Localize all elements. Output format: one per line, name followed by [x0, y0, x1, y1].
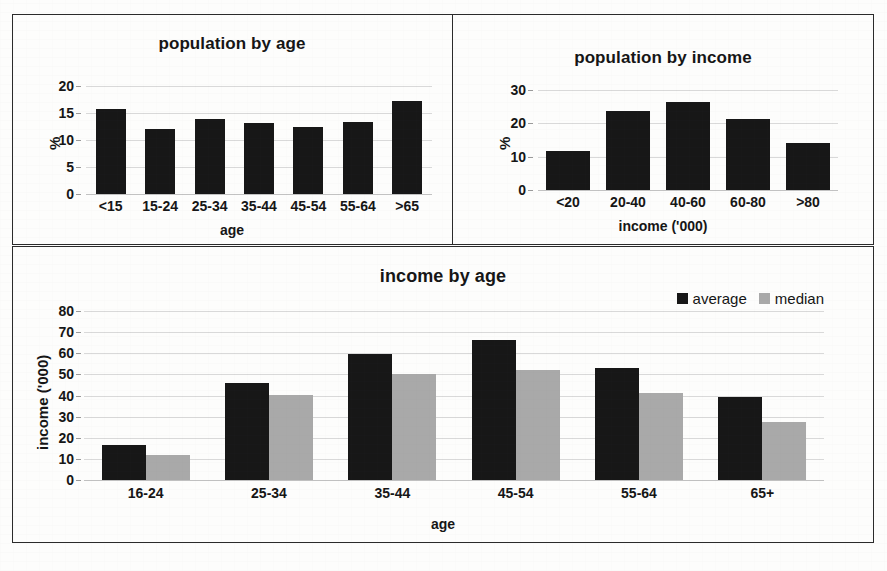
y-axis-tick-mark — [76, 480, 81, 481]
chart-title: income by age — [12, 266, 874, 287]
y-axis-tick-mark — [76, 140, 81, 141]
y-axis-tick-label: 50 — [34, 366, 74, 382]
bar-group — [244, 86, 274, 194]
bar-population by income — [546, 151, 590, 190]
x-axis-tick-label: 15-24 — [135, 198, 184, 214]
legend-label-median: median — [775, 290, 824, 307]
x-axis-tick-label: 55-64 — [333, 198, 382, 214]
legend-label-average: average — [693, 290, 747, 307]
legend-swatch-average — [677, 293, 688, 304]
y-axis-tick-mark — [76, 417, 81, 418]
bar-group — [595, 311, 683, 480]
x-axis-tick-label: 45-54 — [454, 485, 577, 501]
y-axis-tick-mark — [76, 353, 81, 354]
bar-series-container — [86, 86, 432, 194]
y-axis-tick-mark — [76, 438, 81, 439]
x-axis-tick-label: 35-44 — [331, 485, 454, 501]
bar-average — [102, 445, 146, 480]
y-axis-tick-label: 40 — [34, 388, 74, 404]
bar-population by age — [392, 101, 422, 194]
plot-area: 80706050403020100 — [84, 311, 824, 480]
y-axis-tick-mark — [528, 190, 533, 191]
x-axis-title: age — [12, 222, 452, 238]
bar-average — [348, 354, 392, 480]
chart-title: population by age — [12, 34, 452, 54]
chart-population-by-income: population by income % 3020100 <2020-404… — [452, 14, 874, 245]
bar-group — [96, 86, 126, 194]
y-axis-tick-label: 30 — [486, 82, 526, 98]
x-axis-tick-label: 20-40 — [598, 194, 658, 210]
x-axis-tick-label: 25-34 — [185, 198, 234, 214]
y-axis-tick-label: 0 — [34, 472, 74, 488]
y-axis-tick-mark — [528, 123, 533, 124]
x-axis-tick-label: 40-60 — [658, 194, 718, 210]
chart-income-by-age: income by age income ('000) averagemedia… — [12, 246, 874, 543]
y-axis-tick-mark — [76, 311, 81, 312]
y-axis-tick-label: 0 — [486, 182, 526, 198]
y-axis-tick-mark — [76, 86, 81, 87]
gridline — [86, 194, 432, 195]
bar-population by age — [244, 123, 274, 194]
x-axis-tick-label: <15 — [86, 198, 135, 214]
bar-average — [225, 383, 269, 480]
x-axis-tick-label: 45-54 — [284, 198, 333, 214]
bar-group — [546, 90, 590, 190]
bar-group — [472, 311, 560, 480]
y-axis-tick-label: 30 — [34, 409, 74, 425]
y-axis-tick-mark — [76, 167, 81, 168]
y-axis-tick-mark — [76, 374, 81, 375]
x-axis-tick-label: 35-44 — [234, 198, 283, 214]
bar-group — [392, 86, 422, 194]
y-axis-tick-label: 20 — [34, 430, 74, 446]
bar-median — [392, 374, 436, 480]
y-axis-tick-mark — [76, 396, 81, 397]
bar-population by age — [145, 129, 175, 194]
x-axis-tick-label: >65 — [383, 198, 432, 214]
y-axis-tick-label: 0 — [34, 186, 74, 202]
x-axis-tick-label: 65+ — [701, 485, 824, 501]
bar-median — [762, 422, 806, 480]
legend-item-median: median — [759, 290, 824, 307]
bar-population by age — [293, 127, 323, 194]
y-axis-tick-label: 15 — [34, 105, 74, 121]
bar-group — [726, 90, 770, 190]
bar-series-container — [84, 311, 824, 480]
bar-group — [343, 86, 373, 194]
plot-area: 20151050 — [86, 86, 432, 194]
x-axis-tick-label: 60-80 — [718, 194, 778, 210]
y-axis-tick-mark — [528, 90, 533, 91]
bar-median — [639, 393, 683, 480]
y-axis-tick-label: 20 — [486, 115, 526, 131]
y-axis-tick-mark — [76, 332, 81, 333]
bar-group — [293, 86, 323, 194]
bar-median — [516, 370, 560, 480]
bar-group — [606, 90, 650, 190]
bar-median — [269, 395, 313, 480]
y-axis-tick-label: 5 — [34, 159, 74, 175]
bar-group — [195, 86, 225, 194]
chart-population-by-age: population by age % 20151050 <1515-2425-… — [12, 14, 452, 245]
y-axis-tick-mark — [528, 157, 533, 158]
y-axis-tick-mark — [76, 194, 81, 195]
bar-population by age — [343, 122, 373, 194]
x-axis-tick-label: >80 — [778, 194, 838, 210]
chart-title: population by income — [452, 48, 874, 68]
bar-group — [348, 311, 436, 480]
x-axis-tick-label: 25-34 — [207, 485, 330, 501]
x-axis-title: age — [12, 516, 874, 532]
bar-population by age — [96, 109, 126, 194]
bar-group — [718, 311, 806, 480]
x-axis-tick-label: <20 — [538, 194, 598, 210]
bar-population by age — [195, 119, 225, 194]
bar-average — [472, 340, 516, 480]
bar-population by income — [666, 102, 710, 190]
y-axis-tick-label: 80 — [34, 303, 74, 319]
y-axis-tick-mark — [76, 113, 81, 114]
x-axis-tick-label: 16-24 — [84, 485, 207, 501]
bar-series-container — [538, 90, 838, 190]
x-axis-title: income ('000) — [452, 218, 874, 234]
y-axis-tick-mark — [76, 459, 81, 460]
bar-group — [666, 90, 710, 190]
gridline — [538, 190, 838, 191]
bar-population by income — [786, 143, 830, 190]
